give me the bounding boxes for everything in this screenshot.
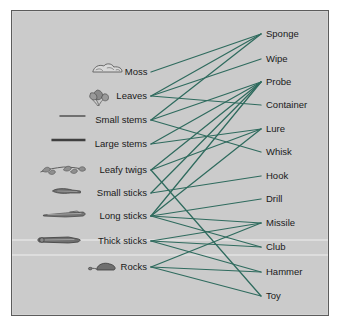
edge-small_sticks-to-probe	[151, 82, 261, 193]
edge-thick_sticks-to-missile	[151, 223, 261, 241]
edge-small_sticks-to-hook	[151, 176, 261, 193]
edge-leafy_twigs-to-probe	[151, 82, 261, 170]
edge-long_sticks-to-drill	[151, 199, 261, 216]
right-node-toy[interactable]: Toy	[266, 291, 281, 301]
right-node-sponge[interactable]: Sponge	[266, 29, 299, 39]
leaf-cluster-icon	[90, 90, 109, 106]
edge-long_sticks-to-probe	[151, 82, 261, 216]
edge-rocks-to-missile	[151, 223, 261, 267]
right-node-drill[interactable]: Drill	[266, 194, 282, 204]
right-node-container[interactable]: Container	[266, 100, 307, 110]
right-node-club[interactable]: Club	[266, 242, 286, 252]
edge-layer	[151, 34, 261, 296]
left-node-leafy_twigs[interactable]: Leafy twigs	[89, 165, 147, 175]
right-node-missile[interactable]: Missile	[266, 218, 295, 228]
long-stick-icon	[43, 211, 85, 217]
left-node-rocks[interactable]: Rocks	[120, 262, 147, 272]
right-node-hook[interactable]: Hook	[266, 171, 288, 181]
rock-icon	[88, 263, 115, 270]
thick-stick-icon	[38, 237, 81, 243]
right-node-whisk[interactable]: Whisk	[266, 147, 292, 157]
moss-clump-icon	[93, 64, 122, 72]
right-node-wipe[interactable]: Wipe	[266, 54, 288, 64]
edge-leafy_twigs-to-toy	[151, 170, 261, 296]
left-node-small_stems[interactable]: Small stems	[89, 115, 147, 125]
small-stick-icon	[52, 189, 80, 194]
right-node-hammer[interactable]: Hammer	[266, 267, 302, 277]
left-node-long_sticks[interactable]: Long sticks	[89, 211, 147, 221]
edge-small_stems-to-sponge	[151, 34, 261, 120]
left-node-thick_sticks[interactable]: Thick sticks	[84, 236, 147, 246]
edge-moss-to-sponge	[151, 34, 261, 72]
edge-small_stems-to-probe	[151, 82, 261, 120]
left-node-large_stems[interactable]: Large stems	[89, 139, 147, 149]
edge-long_sticks-to-missile	[151, 216, 261, 223]
leafy-twig-icon	[40, 166, 85, 174]
right-node-probe[interactable]: Probe	[266, 77, 291, 87]
figure-root: MossLeavesSmall stemsLarge stemsLeafy tw…	[0, 0, 339, 326]
right-node-lure[interactable]: Lure	[266, 124, 285, 134]
left-node-small_sticks[interactable]: Small sticks	[84, 188, 147, 198]
left-node-leaves[interactable]: Leaves	[115, 91, 147, 101]
left-node-moss[interactable]: Moss	[125, 67, 147, 77]
